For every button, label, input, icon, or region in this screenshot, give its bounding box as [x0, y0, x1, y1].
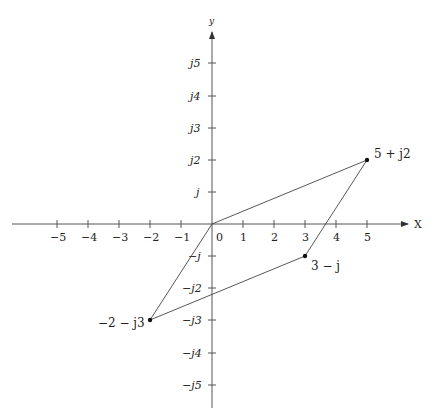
svg-text:j3: j3 [187, 122, 200, 135]
svg-text:−4: −4 [81, 231, 97, 244]
svg-text:−1: −1 [174, 231, 190, 244]
svg-text:−3: −3 [112, 231, 128, 244]
svg-text:−j: −j [188, 250, 201, 263]
point-label-3-minus-j: 3 − j [311, 259, 340, 273]
svg-text:j: j [193, 186, 200, 199]
svg-text:−j3: −j3 [182, 314, 202, 327]
svg-text:j4: j4 [187, 90, 200, 103]
svg-text:4: 4 [333, 231, 340, 244]
point-label-5-plus-j2: 5 + j2 [374, 147, 411, 161]
x-tick-labels: −5 −4 −3 −2 −1 0 1 2 3 4 5 [50, 231, 371, 244]
svg-text:−2: −2 [143, 231, 159, 244]
point-5-plus-j2 [365, 158, 369, 162]
svg-text:−j4: −j4 [182, 347, 202, 360]
svg-text:j5: j5 [187, 57, 200, 70]
svg-text:−j2: −j2 [182, 282, 202, 295]
y-axis-label: y [208, 16, 215, 26]
point-neg2-minus-j3 [148, 318, 152, 322]
diagram-canvas: X y −5 −4 −3 −2 −1 0 1 2 3 4 5 j j2 j3 j… [0, 0, 433, 413]
svg-text:2: 2 [271, 231, 278, 244]
svg-text:−5: −5 [50, 231, 66, 244]
svg-text:j2: j2 [187, 154, 200, 167]
svg-text:0: 0 [216, 231, 223, 244]
point-label-neg2-minus-j3: −2 − j3 [98, 316, 145, 330]
svg-text:3: 3 [302, 231, 309, 244]
svg-text:−j5: −j5 [182, 379, 202, 392]
point-3-minus-j [303, 254, 307, 258]
x-axis-label: X [414, 218, 422, 231]
svg-text:1: 1 [240, 231, 247, 244]
svg-text:5: 5 [364, 231, 371, 244]
complex-plane-diagram: X y −5 −4 −3 −2 −1 0 1 2 3 4 5 j j2 j3 j… [0, 0, 433, 413]
